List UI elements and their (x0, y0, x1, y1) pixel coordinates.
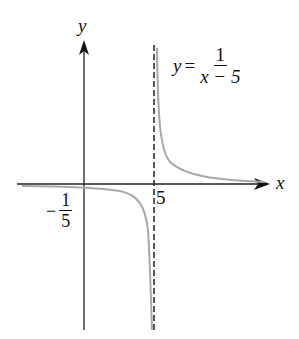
annotation-numerator: 1 (214, 45, 228, 66)
y-intercept-denominator: 5 (59, 211, 72, 230)
annotation-denominator: x − 5 (198, 66, 242, 86)
x-axis-label: x (276, 173, 284, 192)
function-annotation: y = 1 x − 5 (173, 45, 242, 86)
y-intercept-label: − 1 5 (46, 191, 72, 230)
curve-left-branch (22, 186, 152, 330)
annotation-lhs: y (173, 56, 181, 75)
x-tick-label-5: 5 (156, 188, 166, 207)
y-intercept-numerator: 1 (59, 191, 72, 211)
minus-sign: − (46, 202, 56, 220)
y-axis-label: y (78, 16, 86, 35)
plot-area (0, 0, 299, 339)
annotation-equals: = (184, 56, 195, 75)
